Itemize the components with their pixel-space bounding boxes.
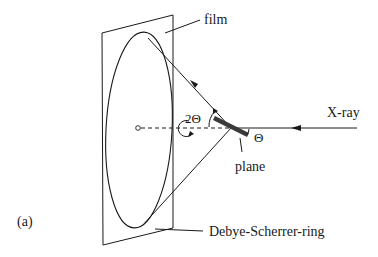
ring-label: Debye-Scherrer-ring: [209, 225, 325, 239]
panel-label: (a): [17, 215, 33, 229]
film-leader-line: [165, 20, 200, 33]
rotation-arrowhead-icon: [188, 131, 194, 137]
plane-label: plane: [235, 160, 265, 174]
diffraction-diagram: [0, 0, 378, 257]
theta-label: Θ: [254, 131, 263, 145]
xray-label: X-ray: [327, 106, 360, 120]
two-theta-label: 2Θ: [185, 112, 201, 126]
cone-line-bottom: [142, 128, 231, 226]
crystal-plane: [214, 118, 248, 135]
center-point: [136, 126, 141, 131]
film-label: film: [204, 13, 227, 27]
theta-arc: [247, 129, 249, 135]
diffracted-beam-arrow-icon: [190, 80, 198, 88]
xray-arrow-icon: [291, 125, 301, 131]
plane-leader-line: [240, 138, 242, 152]
